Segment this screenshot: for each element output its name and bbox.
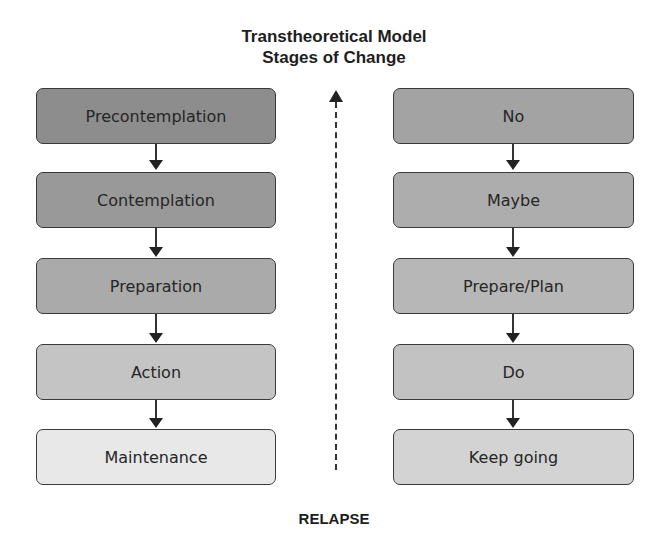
down-arrow-icon (149, 144, 163, 172)
down-arrow-icon (149, 228, 163, 258)
stage-box-maintenance: Maintenance (36, 429, 276, 485)
stage-label: Preparation (110, 277, 202, 296)
stage-label: Maintenance (104, 448, 207, 467)
stage-box-no: No (393, 88, 634, 144)
stage-label: Action (131, 363, 181, 382)
down-arrow-icon (149, 400, 163, 429)
down-arrow-icon (506, 144, 520, 172)
stage-box-do: Do (393, 344, 634, 400)
stage-label: Contemplation (97, 191, 215, 210)
title-line-2: Stages of Change (0, 47, 668, 68)
relapse-dashed-line (335, 102, 337, 470)
down-arrow-icon (506, 228, 520, 258)
diagram-title: Transtheoretical Model Stages of Change (0, 26, 668, 68)
stage-box-precontemplation: Precontemplation (36, 88, 276, 144)
title-line-1: Transtheoretical Model (0, 26, 668, 47)
down-arrow-icon (506, 314, 520, 344)
stage-box-contemplation: Contemplation (36, 172, 276, 228)
stage-label: Maybe (487, 191, 540, 210)
stage-label: Keep going (469, 448, 558, 467)
stage-box-action: Action (36, 344, 276, 400)
stage-label: Do (502, 363, 524, 382)
down-arrow-icon (149, 314, 163, 344)
stage-box-keep-going: Keep going (393, 429, 634, 485)
up-arrow-icon (329, 90, 343, 102)
stage-label: Prepare/Plan (463, 277, 564, 296)
relapse-label: RELAPSE (0, 510, 668, 527)
stage-box-prepare-plan: Prepare/Plan (393, 258, 634, 314)
stage-box-preparation: Preparation (36, 258, 276, 314)
stage-box-maybe: Maybe (393, 172, 634, 228)
stage-label: No (503, 107, 525, 126)
down-arrow-icon (506, 400, 520, 429)
stage-label: Precontemplation (86, 107, 227, 126)
